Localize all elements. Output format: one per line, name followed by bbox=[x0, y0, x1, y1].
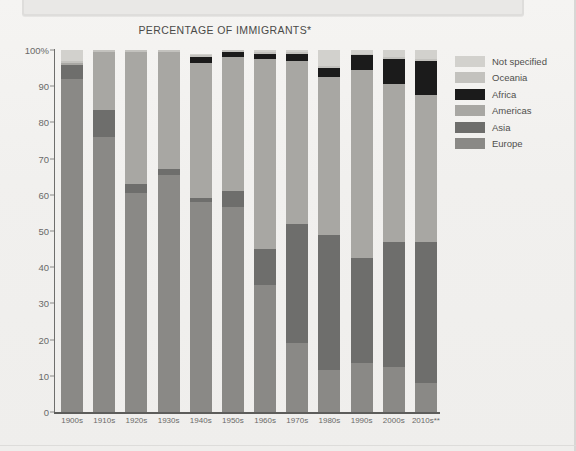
y-axis-tick-label: 100% bbox=[25, 45, 49, 56]
bar-stack[interactable] bbox=[125, 50, 147, 412]
bar-segment[interactable] bbox=[125, 184, 147, 193]
x-axis-tick-label: 1960s bbox=[254, 416, 276, 425]
bar-stack[interactable] bbox=[254, 50, 276, 412]
bar-segment[interactable] bbox=[415, 61, 437, 95]
bar-stack[interactable] bbox=[351, 50, 373, 412]
bar-segment[interactable] bbox=[93, 52, 115, 110]
y-axis-tick-label: 50 bbox=[38, 226, 49, 237]
bar-segment[interactable] bbox=[125, 193, 147, 412]
x-axis-tick-label: 2010s** bbox=[412, 416, 440, 425]
y-axis-tick-mark bbox=[50, 412, 54, 413]
bar-segment[interactable] bbox=[222, 207, 244, 412]
bar-segment[interactable] bbox=[383, 59, 405, 84]
legend-item[interactable]: Oceania bbox=[455, 70, 571, 87]
bar-segment[interactable] bbox=[286, 54, 308, 61]
bar-stack[interactable] bbox=[318, 50, 340, 412]
legend-swatch bbox=[455, 122, 485, 133]
bar-segment[interactable] bbox=[93, 137, 115, 412]
y-axis-tick-label: 0 bbox=[44, 407, 49, 418]
y-axis-tick-mark bbox=[50, 303, 54, 304]
y-axis-tick-mark bbox=[50, 86, 54, 87]
bar-segment[interactable] bbox=[61, 79, 83, 412]
bar-segment[interactable] bbox=[222, 57, 244, 191]
legend-swatch bbox=[455, 56, 485, 67]
bar-segment[interactable] bbox=[61, 65, 83, 79]
bar-stack[interactable] bbox=[415, 50, 437, 412]
bar-segment[interactable] bbox=[351, 363, 373, 412]
bar-segment[interactable] bbox=[383, 50, 405, 57]
bar-stack[interactable] bbox=[61, 50, 83, 412]
bar-stack[interactable] bbox=[222, 50, 244, 412]
legend-item[interactable]: Europe bbox=[455, 136, 571, 153]
x-axis-tick-label: 1900s bbox=[61, 416, 83, 425]
x-axis-tick-label: 1950s bbox=[222, 416, 244, 425]
x-axis-tick-label: 1920s bbox=[126, 416, 148, 425]
bar-segment[interactable] bbox=[383, 367, 405, 412]
bar-segment[interactable] bbox=[383, 84, 405, 241]
bar-segment[interactable] bbox=[254, 249, 276, 285]
bar-stack[interactable] bbox=[383, 50, 405, 412]
legend-label: Europe bbox=[492, 138, 523, 149]
bar-segment[interactable] bbox=[383, 242, 405, 367]
legend-swatch bbox=[455, 138, 485, 149]
y-axis-tick-label: 20 bbox=[38, 334, 49, 345]
bar-stack[interactable] bbox=[158, 50, 180, 412]
bottom-page-edge bbox=[0, 445, 576, 446]
legend-item[interactable]: Asia bbox=[455, 119, 571, 136]
bar-segment[interactable] bbox=[351, 55, 373, 69]
bar-segment[interactable] bbox=[93, 110, 115, 137]
x-axis-tick-label: 1940s bbox=[190, 416, 212, 425]
legend-item[interactable]: Americas bbox=[455, 103, 571, 120]
bar-segment[interactable] bbox=[318, 370, 340, 412]
bar-segment[interactable] bbox=[222, 191, 244, 207]
bar-segment[interactable] bbox=[351, 70, 373, 258]
bar-segment[interactable] bbox=[286, 61, 308, 224]
bar-stack[interactable] bbox=[190, 50, 212, 412]
bar-segment[interactable] bbox=[318, 235, 340, 371]
bar-segment[interactable] bbox=[190, 202, 212, 412]
x-axis-line bbox=[54, 412, 440, 414]
legend-swatch bbox=[455, 105, 485, 116]
bar-segment[interactable] bbox=[125, 52, 147, 184]
bar-segment[interactable] bbox=[190, 63, 212, 199]
legend-label: Africa bbox=[492, 89, 516, 100]
y-axis-tick-label: 80 bbox=[38, 117, 49, 128]
bar-segment[interactable] bbox=[61, 50, 83, 61]
plot-area: 100%90807060504030201001900s1910s1920s19… bbox=[54, 50, 440, 412]
y-axis-tick-mark bbox=[50, 122, 54, 123]
bar-segment[interactable] bbox=[415, 383, 437, 412]
bar-segment[interactable] bbox=[415, 95, 437, 242]
y-axis-tick-label: 60 bbox=[38, 189, 49, 200]
legend-swatch bbox=[455, 72, 485, 83]
x-axis-tick-label: 1990s bbox=[351, 416, 373, 425]
bar-segment[interactable] bbox=[286, 343, 308, 412]
top-banner-frame bbox=[22, 0, 524, 16]
x-axis-tick-label: 1930s bbox=[158, 416, 180, 425]
bar-stack[interactable] bbox=[286, 50, 308, 412]
chart-legend: Not specifiedOceaniaAfricaAmericasAsiaEu… bbox=[455, 53, 571, 152]
bar-segment[interactable] bbox=[318, 77, 340, 234]
legend-swatch bbox=[455, 89, 485, 100]
y-axis-tick-label: 40 bbox=[38, 262, 49, 273]
bar-segment[interactable] bbox=[415, 242, 437, 383]
bar-segment[interactable] bbox=[318, 68, 340, 77]
y-axis-tick-mark bbox=[50, 50, 54, 51]
bar-segment[interactable] bbox=[415, 50, 437, 59]
y-axis-tick-label: 70 bbox=[38, 153, 49, 164]
legend-label: Asia bbox=[492, 122, 510, 133]
y-axis-tick-mark bbox=[50, 158, 54, 159]
legend-item[interactable]: Not specified bbox=[455, 53, 571, 70]
bar-segment[interactable] bbox=[286, 224, 308, 343]
bar-segment[interactable] bbox=[254, 59, 276, 249]
bar-segment[interactable] bbox=[158, 52, 180, 170]
bar-segment[interactable] bbox=[158, 175, 180, 412]
bar-segment[interactable] bbox=[254, 285, 276, 412]
y-axis-tick-label: 90 bbox=[38, 81, 49, 92]
legend-label: Not specified bbox=[492, 56, 547, 67]
bar-stack[interactable] bbox=[93, 50, 115, 412]
legend-label: Oceania bbox=[492, 72, 527, 83]
x-axis-tick-label: 1970s bbox=[286, 416, 308, 425]
bar-segment[interactable] bbox=[351, 258, 373, 363]
legend-item[interactable]: Africa bbox=[455, 86, 571, 103]
bar-segment[interactable] bbox=[318, 50, 340, 66]
